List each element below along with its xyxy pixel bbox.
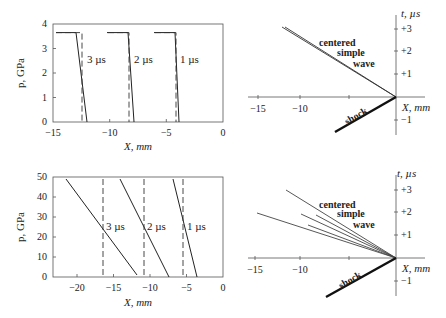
ttick: +2: [401, 45, 412, 56]
ttick: +3: [401, 23, 412, 34]
characteristic-line: [301, 214, 396, 258]
y-axis-label: p, GPa: [14, 58, 26, 88]
xtick: −10: [292, 264, 308, 275]
ytick: 0: [42, 116, 47, 127]
xtick: −10: [292, 103, 308, 114]
wave-label-wave: wave: [353, 58, 375, 69]
xtick: −15: [106, 282, 122, 293]
y-axis-label: p, GPa: [14, 212, 26, 242]
ytick: 4: [42, 18, 47, 29]
ytick: 40: [37, 191, 47, 202]
t-axis-label: t, µs: [397, 167, 416, 179]
characteristic-line: [308, 225, 396, 258]
ttick: −1: [401, 275, 412, 286]
wave-label-simple: simple: [337, 208, 365, 219]
ytick: 10: [37, 251, 47, 262]
profile-1us: [154, 33, 179, 122]
profile-2us: [107, 33, 134, 122]
label-2us: 2 µs: [134, 53, 153, 65]
xtick: −15: [45, 127, 61, 138]
plot-bottom-left: 50 40 30 20 10 0 −20 −15 −10 −5 0 X, mm …: [14, 171, 226, 308]
ytick: 2: [42, 67, 47, 78]
label-3us: 3 µs: [106, 220, 125, 232]
label-3us: 3 µs: [87, 53, 106, 65]
xtick: −5: [161, 127, 172, 138]
x-axis-label: X, mm: [401, 101, 430, 113]
ttick: −1: [401, 114, 412, 125]
ytick: 3: [42, 43, 47, 54]
ttick: +1: [401, 229, 412, 240]
ytick: 1: [42, 92, 47, 103]
xtick: −10: [102, 127, 118, 138]
xtick: −5: [181, 282, 192, 293]
shock-label: shock: [337, 269, 364, 291]
profile-3us: [66, 179, 137, 275]
x-axis-label: X, mm: [401, 262, 430, 274]
xtick: −15: [247, 264, 263, 275]
label-1us: 1 µs: [180, 53, 199, 65]
ttick: +2: [401, 206, 412, 217]
ttick: +1: [401, 68, 412, 79]
x-axis-label: X, mm: [123, 296, 152, 308]
wave-label-wave: wave: [353, 219, 375, 230]
xtick: 0: [221, 127, 226, 138]
plot-top-right: −15 −10 +3 +2 +1 −1 t, µs X, mm centered…: [248, 7, 430, 135]
plot-bottom-right: −15 −10 +3 +2 +1 −1 t, µs X, mm centered…: [247, 167, 430, 297]
plot-frame: [53, 24, 223, 122]
ttick: +3: [401, 184, 412, 195]
wave-label-simple: simple: [337, 47, 365, 58]
label-2us: 2 µs: [147, 220, 166, 232]
xtick: 0: [221, 282, 226, 293]
t-axis-label: t, µs: [401, 7, 420, 19]
label-1us: 1 µs: [187, 220, 206, 232]
xtick: −15: [250, 103, 266, 114]
ytick: 0: [42, 271, 47, 282]
ytick: 30: [37, 211, 47, 222]
dashed-1us: [155, 33, 176, 122]
ytick: 20: [37, 231, 47, 242]
shock-label: shock: [343, 105, 370, 127]
ytick: 50: [37, 171, 47, 182]
figure: 4 3 2 1 0 −15 −10 −5 0 X, mm p, GPa 3 µs…: [0, 0, 446, 318]
plot-top-left: 4 3 2 1 0 −15 −10 −5 0 X, mm p, GPa 3 µs…: [14, 18, 226, 152]
x-axis-label: X, mm: [123, 140, 152, 152]
dashed-2us: [108, 33, 129, 122]
characteristic-line: [257, 213, 396, 258]
xtick: −20: [69, 282, 85, 293]
xtick: −10: [142, 282, 158, 293]
